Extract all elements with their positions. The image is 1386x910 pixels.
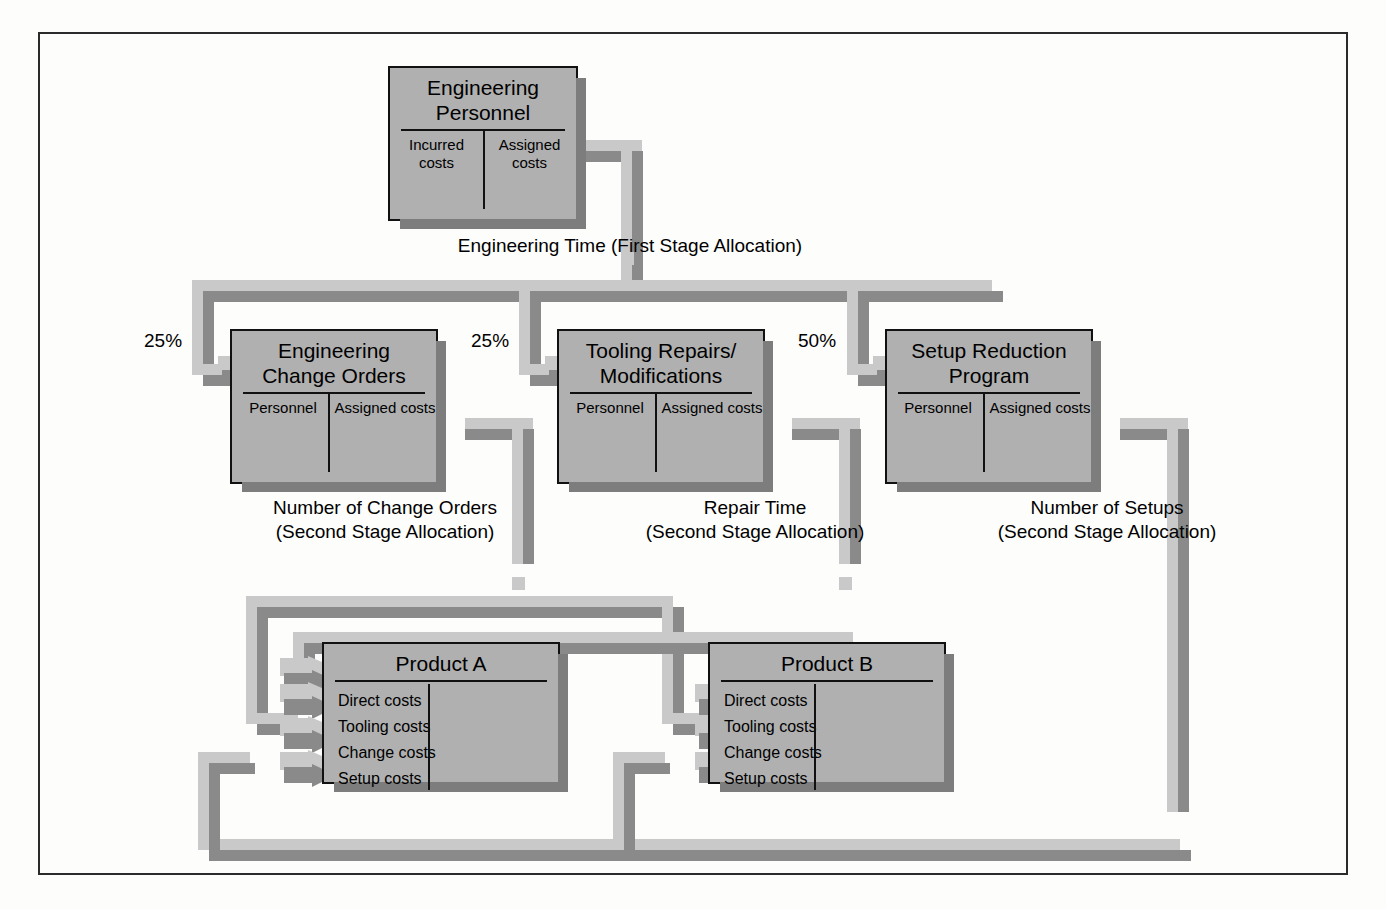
- bus-setup-leadB-light: [613, 752, 665, 763]
- product-title: Product A: [324, 644, 558, 676]
- product-cost-item: Change costs: [724, 740, 944, 766]
- bus-setup-bottom-dark: [209, 850, 1191, 861]
- resource-title-line2: Personnel: [390, 100, 576, 125]
- activity-col-personnel: Personnel: [232, 394, 334, 417]
- firststage-bus-light: [192, 280, 992, 291]
- label-driver-change-orders-line1: Number of Change Orders: [210, 496, 560, 520]
- activity-col-personnel: Personnel: [559, 394, 661, 417]
- resource-col-incurred: Incurred costs: [390, 131, 483, 172]
- firststage-drop-1-light: [192, 280, 203, 372]
- firststage-drop-3-light: [847, 280, 858, 372]
- product-column-divider: [814, 684, 816, 790]
- bus-setup-upB-light: [613, 752, 624, 850]
- activity-col-assigned: Assigned costs: [661, 394, 763, 417]
- activity-column-divider: [655, 394, 657, 472]
- activity-column-divider: [983, 394, 985, 472]
- activity-title-line2: Change Orders: [232, 363, 436, 388]
- product-box-product-b[interactable]: Product B Direct costs Tooling costs Cha…: [708, 642, 946, 784]
- activity-col-personnel: Personnel: [887, 394, 989, 417]
- box-shadow-right: [558, 654, 568, 792]
- activity-title-line2: Program: [887, 363, 1091, 388]
- box-shadow-bottom: [897, 482, 1101, 492]
- product-box-product-a[interactable]: Product A Direct costs Tooling costs Cha…: [322, 642, 560, 784]
- diagram-frame: Engineering Personnel Incurred costs Ass…: [38, 32, 1348, 875]
- box-shadow-right: [576, 78, 586, 229]
- product-cost-item: Tooling costs: [724, 714, 944, 740]
- bus-change-rightB-light: [513, 596, 673, 607]
- activity-title-line1: Tooling Repairs/: [559, 331, 763, 363]
- bus-change-downB-light: [662, 596, 673, 721]
- resource-title-line1: Engineering: [390, 68, 576, 100]
- activity-box-tooling-repairs-modifications[interactable]: Tooling Repairs/ Modifications Personnel…: [557, 329, 765, 484]
- resource-columns: Incurred costs Assigned costs: [390, 131, 576, 172]
- label-driver-change-orders-line2: (Second Stage Allocation): [210, 520, 560, 544]
- bus-change-left-light: [246, 596, 257, 721]
- bus-change-rightB-dark: [524, 607, 678, 618]
- firststage-drop-2-light: [519, 280, 530, 372]
- bus-setup-bottom-light: [198, 839, 1180, 850]
- product-cost-item: Setup costs: [724, 766, 944, 792]
- conn-a3-down-light: [1167, 418, 1178, 812]
- product-cost-item: Setup costs: [338, 766, 558, 792]
- product-cost-list: Direct costs Tooling costs Change costs …: [710, 682, 944, 792]
- bus-setup-upA-dark: [209, 763, 220, 861]
- activity-col-assigned: Assigned costs: [334, 394, 436, 417]
- product-cost-item: Direct costs: [338, 688, 558, 714]
- box-shadow-right: [1091, 341, 1101, 492]
- resource-box-engineering-personnel[interactable]: Engineering Personnel Incurred costs Ass…: [388, 66, 578, 221]
- box-shadow-bottom: [400, 219, 586, 229]
- product-cost-item: Change costs: [338, 740, 558, 766]
- activity-column-divider: [328, 394, 330, 472]
- label-allocation-pct-setup-reduction: 50%: [798, 330, 836, 352]
- connector-resource-down-dark: [632, 151, 643, 286]
- bus-setup-upB-dark: [624, 763, 635, 861]
- label-allocation-pct-tooling-repairs: 25%: [471, 330, 509, 352]
- box-shadow-right: [436, 341, 446, 492]
- bus-change-top-dark: [257, 607, 529, 618]
- bus-direct-A-light: [293, 632, 304, 643]
- firststage-bus-dark: [203, 291, 1003, 302]
- activity-columns: Personnel Assigned costs: [887, 394, 1091, 417]
- activity-col-assigned: Assigned costs: [989, 394, 1091, 417]
- bus-setup-upA-light: [198, 752, 209, 850]
- activity-box-engineering-change-orders[interactable]: Engineering Change Orders Personnel Assi…: [230, 329, 438, 484]
- label-driver-tooling-repairs-line2: (Second Stage Allocation): [595, 520, 915, 544]
- label-driver-setup-reduction-line2: (Second Stage Allocation): [942, 520, 1272, 544]
- label-allocation-pct-change-orders: 25%: [144, 330, 182, 352]
- conn-a1-stub-light: [512, 577, 525, 590]
- activity-title-line1: Setup Reduction: [887, 331, 1091, 363]
- product-cost-item: Direct costs: [724, 688, 944, 714]
- activity-columns: Personnel Assigned costs: [559, 394, 763, 417]
- box-shadow-bottom: [242, 482, 446, 492]
- conn-a2-stub-light: [839, 577, 852, 590]
- product-cost-item: Tooling costs: [338, 714, 558, 740]
- activity-title-line2: Modifications: [559, 363, 763, 388]
- box-shadow-bottom: [569, 482, 773, 492]
- conn-a3-down-dark: [1178, 429, 1189, 812]
- activity-columns: Personnel Assigned costs: [232, 394, 436, 417]
- label-driver-tooling-repairs-line1: Repair Time: [595, 496, 915, 520]
- bus-setup-leadB-dark: [624, 763, 670, 774]
- product-cost-list: Direct costs Tooling costs Change costs …: [324, 682, 558, 792]
- bus-change-top-light: [246, 596, 524, 607]
- product-title: Product B: [710, 644, 944, 676]
- activity-title-line1: Engineering: [232, 331, 436, 363]
- label-driver-setup-reduction-line1: Number of Setups: [942, 496, 1272, 520]
- resource-col-assigned: Assigned costs: [483, 131, 576, 172]
- product-column-divider: [428, 684, 430, 790]
- bus-setup-leadA-dark: [209, 763, 255, 774]
- box-shadow-right: [763, 341, 773, 492]
- box-shadow-right: [944, 654, 954, 792]
- bus-setup-leadA-light: [198, 752, 250, 763]
- activity-box-setup-reduction-program[interactable]: Setup Reduction Program Personnel Assign…: [885, 329, 1093, 484]
- label-first-stage-driver: Engineering Time (First Stage Allocation…: [200, 234, 1060, 258]
- diagram-canvas: Engineering Personnel Incurred costs Ass…: [0, 0, 1386, 910]
- resource-column-divider: [483, 131, 485, 209]
